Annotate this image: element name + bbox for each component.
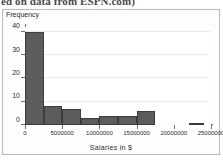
x-axis-tick: [211, 125, 212, 129]
x-axis-tick: [62, 125, 63, 129]
y-axis-title: Frequency: [6, 11, 39, 18]
x-axis-tick: [25, 125, 26, 129]
x-axis-tick: [99, 125, 100, 129]
y-axis-tick: [21, 77, 25, 78]
y-tick-layer: 010203040: [25, 27, 211, 125]
histogram-figure: ed on data from ESPN.com) Frequency 0102…: [0, 0, 223, 165]
y-axis-tick-label: 20: [12, 68, 20, 75]
y-axis-tick: [21, 31, 25, 32]
x-axis-tick-label: 5000000: [51, 130, 74, 136]
x-axis-tick-label: 20000000: [160, 130, 187, 136]
x-axis-tick-label: 25000000: [198, 130, 223, 136]
x-axis-tick-label: 15000000: [123, 130, 150, 136]
chart-panel: Frequency 010203040 05000000100000001500…: [2, 9, 220, 155]
x-axis-tick-label: 0: [23, 130, 26, 136]
y-axis-tick-label: 40: [12, 22, 20, 29]
y-axis-tick: [21, 54, 25, 55]
plot-area: 010203040 050000001000000015000000200000…: [25, 27, 211, 125]
x-axis-tick: [137, 125, 138, 129]
y-axis-tick: [21, 101, 25, 102]
y-axis-tick-label: 10: [12, 92, 20, 99]
figure-caption: ed on data from ESPN.com): [1, 0, 135, 7]
x-axis-tick-label: 10000000: [86, 130, 113, 136]
x-axis-tick: [174, 125, 175, 129]
y-axis-tick-label: 30: [12, 45, 20, 52]
x-axis-title: Salaries in $: [3, 144, 219, 151]
y-axis-tick-label: 0: [16, 115, 20, 122]
